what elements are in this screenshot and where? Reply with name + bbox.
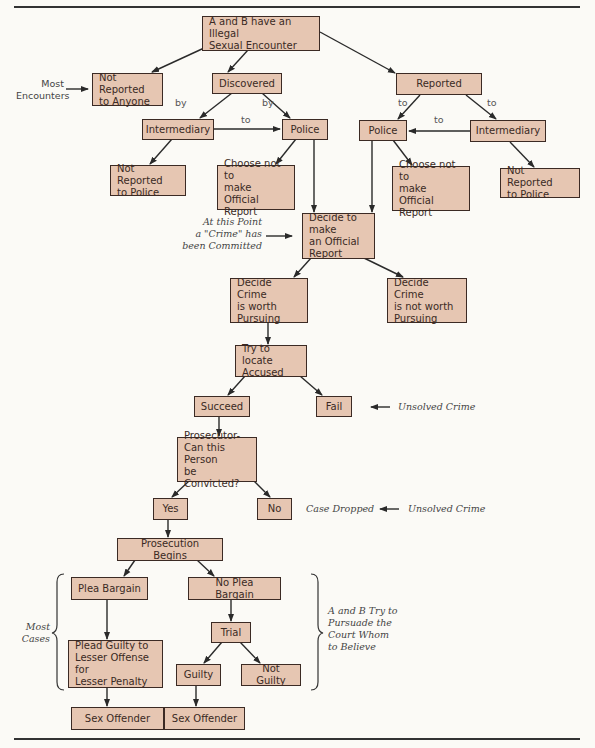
node-label: Succeed xyxy=(201,401,243,413)
node-decide-official: Decide to make an Official Report xyxy=(302,213,375,259)
node-label: Police xyxy=(369,125,398,137)
node-label: Try to locate Accused xyxy=(242,343,300,379)
node-label: Not Guilty xyxy=(248,663,294,687)
node-label: Not Reported to Police xyxy=(117,163,179,199)
node-try-locate: Try to locate Accused xyxy=(235,345,307,377)
edge-label-intermediary-to-police-right: to xyxy=(434,114,444,125)
node-label: Trial xyxy=(221,627,241,639)
node-choose-not-left: Choose not to make Official Report xyxy=(217,165,295,210)
node-sex-offender-left: Sex Offender xyxy=(71,707,164,730)
annotation-crime-committed: At this Point a "Crime" has been Committ… xyxy=(180,216,262,252)
node-not-reported-police-left: Not Reported to Police xyxy=(110,165,186,196)
node-decide-worth: Decide Crime is worth Pursuing xyxy=(230,278,308,323)
node-label: Fail xyxy=(326,401,343,413)
node-label: Not Reported to Police xyxy=(507,165,573,201)
node-not-guilty: Not Guilty xyxy=(241,664,301,686)
node-label: Prosecutor- Can this Person be Convicted… xyxy=(184,430,250,490)
node-trial: Trial xyxy=(211,622,251,643)
node-police-right: Police xyxy=(359,120,407,141)
node-label: Prosecution Begins xyxy=(124,538,216,562)
node-choose-not-right: Choose not to make Official Report xyxy=(392,166,470,211)
node-fail: Fail xyxy=(316,396,352,417)
node-label: Not Reported to Anyone xyxy=(99,72,156,108)
node-label: Yes xyxy=(162,503,178,515)
node-label: Reported xyxy=(416,78,462,90)
node-no: No xyxy=(257,498,292,520)
node-label: Decide Crime is not worth Pursuing xyxy=(394,277,460,325)
node-not-reported-police-right: Not Reported to Police xyxy=(500,168,580,198)
node-label: Decide Crime is worth Pursuing xyxy=(237,277,301,325)
node-sex-offender-right: Sex Offender xyxy=(164,707,245,730)
edge-label-discovered-by-left: by xyxy=(175,97,187,108)
node-label: Choose not to make Official Report xyxy=(224,158,288,218)
node-label: Sex Offender xyxy=(172,713,237,725)
node-guilty: Guilty xyxy=(176,664,221,686)
node-decide-not-worth: Decide Crime is not worth Pursuing xyxy=(387,278,467,323)
node-plead-guilty: Plead Guilty to Lesser Offense for Lesse… xyxy=(68,640,163,688)
node-label: No xyxy=(268,503,282,515)
edge-label-intermediary-to-police-left: to xyxy=(241,114,251,125)
node-label: A and B have an Illegal Sexual Encounter xyxy=(209,16,313,52)
node-root: A and B have an Illegal Sexual Encounter xyxy=(202,16,320,51)
node-label: No Plea Bargain xyxy=(195,577,274,601)
flowchart: A and B have an Illegal Sexual Encounter… xyxy=(0,0,595,748)
node-label: Police xyxy=(291,124,320,136)
node-yes: Yes xyxy=(153,498,188,520)
annotation-unsolved-crime-no: Unsolved Crime xyxy=(408,503,485,515)
node-intermediary-left: Intermediary xyxy=(142,119,214,140)
edge-label-discovered-by-right: by xyxy=(262,97,274,108)
node-label: Sex Offender xyxy=(85,713,150,725)
node-label: Plead Guilty to Lesser Offense for Lesse… xyxy=(75,640,156,688)
node-label: Decide to make an Official Report xyxy=(309,212,368,260)
annotation-case-dropped: Case Dropped xyxy=(306,503,374,515)
node-prosecution-begins: Prosecution Begins xyxy=(117,538,223,561)
edge-label-reported-to-right: to xyxy=(487,97,497,108)
node-no-plea-bargain: No Plea Bargain xyxy=(188,577,281,600)
annotation-most-encounters: Most Encounters xyxy=(16,78,64,102)
node-label: Intermediary xyxy=(146,124,210,136)
annotation-persuade-court: A and B Try to Pursuade the Court Whom t… xyxy=(328,605,398,653)
node-plea-bargain: Plea Bargain xyxy=(71,577,148,600)
node-discovered: Discovered xyxy=(212,73,282,94)
node-not-reported-anyone: Not Reported to Anyone xyxy=(92,73,163,106)
node-succeed: Succeed xyxy=(194,396,250,417)
node-prosecutor: Prosecutor- Can this Person be Convicted… xyxy=(177,437,257,482)
node-police-left: Police xyxy=(282,119,328,140)
node-label: Plea Bargain xyxy=(78,583,141,595)
node-intermediary-right: Intermediary xyxy=(470,120,546,142)
annotation-unsolved-crime-fail: Unsolved Crime xyxy=(398,401,475,413)
edge-label-reported-to-left: to xyxy=(398,97,408,108)
annotation-most-cases: Most Cases xyxy=(14,621,50,645)
node-reported: Reported xyxy=(396,73,482,95)
node-label: Choose not to make Official Report xyxy=(399,159,463,219)
node-label: Intermediary xyxy=(476,125,540,137)
node-label: Guilty xyxy=(184,669,213,681)
node-label: Discovered xyxy=(219,78,275,90)
